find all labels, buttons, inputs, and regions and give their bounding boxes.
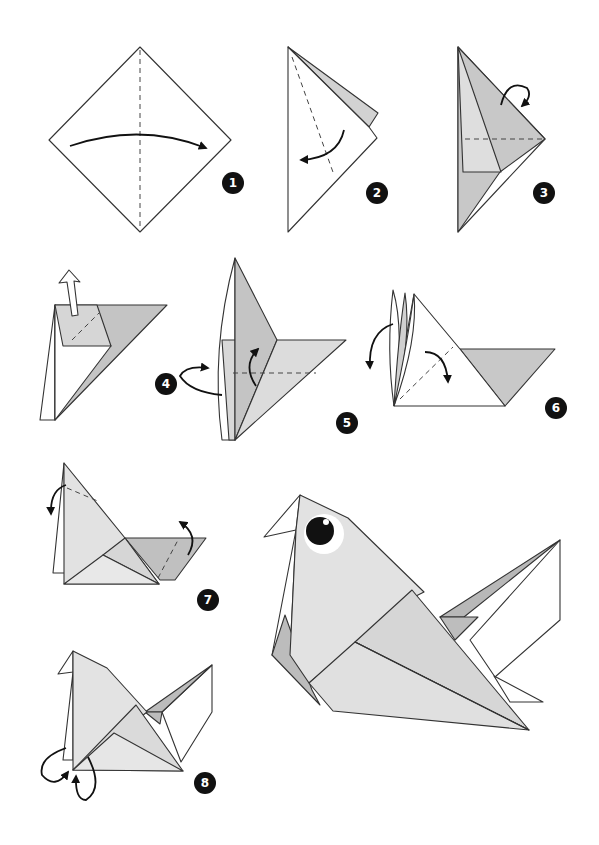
step-2-badge: 2 — [366, 182, 388, 204]
svg-text:7: 7 — [204, 593, 212, 607]
svg-text:6: 6 — [552, 401, 560, 415]
step-4-badge: 4 — [155, 373, 177, 395]
eye-pupil — [306, 517, 334, 545]
step-1-figure — [49, 47, 231, 232]
svg-text:2: 2 — [373, 186, 381, 200]
svg-text:1: 1 — [229, 176, 237, 190]
step-7-badge: 7 — [197, 589, 219, 611]
step-7-figure — [51, 463, 206, 584]
step-2-figure — [288, 47, 378, 232]
turn-over-arrow-icon — [180, 367, 222, 395]
svg-text:5: 5 — [343, 416, 351, 430]
step-5-figure — [180, 258, 346, 440]
step-6-figure — [370, 290, 555, 406]
step-6-badge: 6 — [545, 397, 567, 419]
step-4-figure — [40, 270, 167, 420]
step-3-badge: 3 — [533, 182, 555, 204]
step-1-badge: 1 — [222, 172, 244, 194]
svg-text:4: 4 — [162, 377, 170, 391]
svg-text:3: 3 — [540, 186, 548, 200]
origami-diagram: 1 2 3 — [0, 0, 599, 845]
step-3-figure — [458, 47, 545, 232]
step-5-badge: 5 — [336, 412, 358, 434]
svg-text:8: 8 — [201, 776, 209, 790]
step-8-badge: 8 — [194, 772, 216, 794]
step-8-figure — [42, 651, 213, 800]
final-bird-figure — [264, 495, 560, 730]
